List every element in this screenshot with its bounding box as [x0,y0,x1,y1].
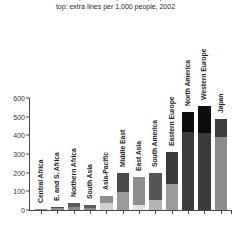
bar-segment-extra-lines [149,173,161,199]
bar-group[interactable]: Northern Africa [68,97,80,210]
bar[interactable] [100,196,112,210]
x-axis-tick-mark [188,210,189,214]
bar-category-label: Asia-Pacific [103,152,110,190]
bar-category-label: East Asia [135,141,142,171]
y-axis-tick-label: 200 [13,169,25,176]
bar-segment-telephone-lines [100,203,112,210]
x-axis-tick-mark [155,210,156,214]
bar-segment-extra-cap [182,112,194,132]
bar-group[interactable]: North America [182,97,194,210]
bar-group[interactable]: South Asia [84,97,96,210]
bar-segment-extra-cap [198,106,210,132]
x-axis-tick-mark [74,210,75,214]
y-axis-tick-label: 100 [13,188,25,195]
bar-segment-telephone-lines [149,200,161,210]
bar-group[interactable]: E. and S. Africa [51,97,63,210]
x-axis-tick-mark [57,210,58,214]
bar-group[interactable]: East Asia [133,97,145,210]
bar[interactable] [182,112,194,210]
x-axis-tick-mark [139,210,140,214]
y-axis-tick-mark [26,191,29,192]
bar-segment-telephone-lines [117,192,129,210]
bar-group[interactable]: Western Europe [198,97,210,210]
x-axis-tick-mark [204,210,205,214]
x-axis-tick-mark [221,210,222,214]
bar-segment-extra-lines [100,196,112,203]
plot-area: 0100200300400500600 Central AfricaE. and… [29,98,231,211]
y-axis-tick-label: 300 [13,151,25,158]
bar[interactable] [215,119,227,210]
bar-segment-telephone-lines [198,133,210,210]
bar-segment-telephone-lines [182,132,194,210]
x-axis-tick-mark [106,210,107,214]
bar-category-label: North America [184,60,191,106]
y-axis-tick-mark [26,210,29,211]
bar[interactable] [166,152,178,210]
bar-group[interactable]: Japan [215,97,227,210]
bar-group[interactable]: South America [149,97,161,210]
y-axis-tick-mark [26,98,29,99]
bar-segment-extra-lines [166,152,178,184]
y-axis-tick-mark [26,116,29,117]
bar-segment-telephone-lines [215,137,227,210]
bar[interactable] [149,173,161,210]
x-axis-line [29,210,231,211]
y-axis-tick-label: 400 [13,132,25,139]
chart-title: bottom: telephone lines per 1,000 people… [0,0,235,12]
bar-segment-telephone-lines [166,184,178,210]
y-axis-line [29,98,30,211]
y-axis-tick-mark [26,154,29,155]
x-axis-tick-mark [231,210,232,214]
y-axis-tick-label: 500 [13,113,25,120]
chart-page: bottom: telephone lines per 1,000 people… [0,0,235,228]
bar-category-label: South Asia [86,165,93,200]
bar-category-label: Eastern Europe [168,97,175,147]
y-axis-tick-label: 0 [21,207,25,214]
bar-category-label: Middle East [119,129,126,166]
bar[interactable] [198,106,210,210]
bar-category-label: Western Europe [201,49,208,100]
x-axis-tick-mark [123,210,124,214]
bar-group[interactable]: Middle East [117,97,129,210]
bar-category-label: Japan [217,93,224,112]
bar-category-label: Central Africa [37,160,44,204]
x-axis-tick-mark [41,210,42,214]
bar-group[interactable]: Eastern Europe [166,97,178,210]
bar-category-label: E. and S. Africa [54,153,61,202]
chart-title-line-2: top: extra lines per 1,000 people, 2002 [0,3,231,13]
x-axis-tick-mark [90,210,91,214]
bar[interactable] [133,177,145,210]
y-axis-tick-label: 600 [13,95,25,102]
bar-category-label: South America [152,120,159,167]
bar[interactable] [117,173,129,210]
bar-group[interactable]: Asia-Pacific [100,97,112,210]
bar-group[interactable]: Central Africa [35,97,47,210]
y-axis-tick-mark [26,135,29,136]
bar-category-label: Northern Africa [70,149,77,198]
bar-segment-extra-lines [133,177,145,205]
y-axis-tick-mark [26,172,29,173]
x-axis-tick-mark [172,210,173,214]
bar-segment-extra-lines [215,119,227,137]
bar-segment-extra-lines [117,173,129,192]
